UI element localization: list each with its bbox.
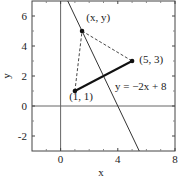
annotation-label: (1, 1) <box>69 90 93 103</box>
y-tick-label: -2 <box>18 130 27 142</box>
data-point <box>130 59 135 64</box>
y-tick-label: 6 <box>22 10 28 22</box>
y-tick-label: 4 <box>22 40 28 52</box>
annotation-label: y = −2x + 8 <box>115 80 167 92</box>
annotation-label: (x, y) <box>86 11 110 24</box>
y-axis-label: y <box>0 73 12 79</box>
x-tick-label: 8 <box>172 153 178 165</box>
y-tick-label: 2 <box>22 70 28 82</box>
x-axis-label: x <box>98 166 104 178</box>
plot-series <box>68 1 140 151</box>
x-tick-label: 4 <box>115 153 121 165</box>
chart: 048-20246 (x, y)(5, 3)(1, 1)y = −2x + 8 … <box>0 0 182 181</box>
data-point <box>80 29 85 34</box>
y-tick-label: 0 <box>22 100 28 112</box>
annotations: (x, y)(5, 3)(1, 1)y = −2x + 8 <box>69 11 167 104</box>
annotation-label: (5, 3) <box>139 53 163 66</box>
series-line <box>75 31 82 91</box>
x-tick-label: 0 <box>58 153 64 165</box>
